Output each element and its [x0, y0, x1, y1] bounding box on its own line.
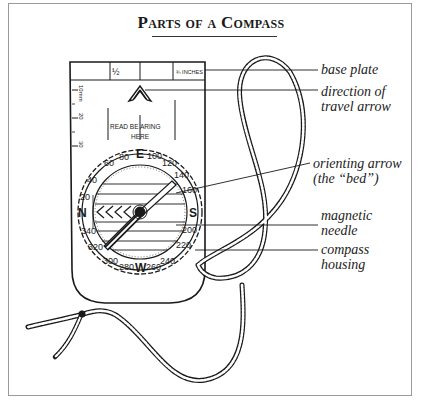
svg-text:320: 320 — [88, 242, 103, 252]
bezel-east: E — [136, 147, 144, 161]
bezel-north: N — [78, 206, 87, 220]
label-base-plate: base plate — [321, 62, 378, 77]
svg-text:240: 240 — [160, 256, 175, 266]
svg-text:100: 100 — [147, 151, 162, 161]
svg-text:340: 340 — [81, 226, 96, 236]
ruler-10mm: 10mm — [78, 85, 84, 102]
ruler-20: 20 — [78, 113, 84, 120]
svg-text:280: 280 — [119, 262, 134, 272]
label-direction-of-travel-arrow: direction of travel arrow — [321, 84, 391, 114]
svg-text:60: 60 — [104, 158, 114, 168]
svg-text:260: 260 — [146, 262, 161, 272]
svg-text:300: 300 — [103, 256, 118, 266]
scale-inches: ¾ INCHES — [176, 69, 203, 75]
svg-text:140: 140 — [174, 170, 189, 180]
read-bearing-line2: HERE — [131, 133, 150, 140]
bezel-south: S — [189, 206, 197, 220]
label-orienting-arrow: orienting arrow (the “bed”) — [313, 156, 402, 186]
label-compass-housing: compass housing — [321, 242, 369, 272]
svg-text:20: 20 — [80, 192, 90, 202]
svg-text:200: 200 — [182, 225, 197, 235]
svg-text:220: 220 — [176, 240, 191, 250]
label-magnetic-needle: magnetic needle — [321, 208, 372, 238]
svg-text:40: 40 — [87, 175, 97, 185]
svg-text:120: 120 — [162, 158, 177, 168]
ruler-30: 30 — [78, 141, 84, 148]
bezel-west: W — [135, 261, 147, 275]
svg-text:80: 80 — [119, 152, 129, 162]
read-bearing-line1: READ BE ARING — [110, 123, 161, 130]
scale-half: ½ — [112, 67, 120, 77]
